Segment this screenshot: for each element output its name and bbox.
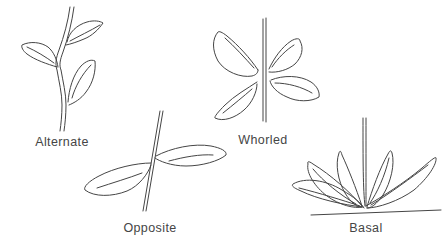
- alternate-arrangement-drawing: Alternate: [22, 7, 103, 149]
- basal-arrangement-drawing: Basal: [292, 118, 441, 235]
- basal-label: Basal: [349, 221, 382, 235]
- opposite-leaf-outline: [85, 163, 151, 195]
- opposite-label: Opposite: [123, 221, 176, 235]
- basal-ground-line: [311, 210, 441, 215]
- whorled-leaf-midrib: [275, 83, 312, 93]
- alternate-label: Alternate: [35, 135, 89, 149]
- leaf-arrangement-diagram: Alternate Whorled Opposite: [0, 0, 448, 248]
- basal-leaf-midrib: [370, 158, 389, 203]
- basal-leaf-outline: [366, 158, 436, 208]
- diagram-canvas: Alternate Whorled Opposite: [0, 0, 448, 248]
- alternate-leaf-midrib: [72, 65, 91, 98]
- opposite-leaf-midrib: [169, 155, 213, 161]
- whorled-label: Whorled: [238, 133, 287, 147]
- opposite-leaf-outline: [155, 145, 226, 166]
- alternate-leaf-outline: [22, 43, 58, 67]
- whorled-leaf-outline: [270, 76, 319, 100]
- basal-leaf-outline: [337, 151, 362, 207]
- basal-stem-line: [363, 118, 365, 206]
- basal-leaf-outline: [308, 162, 362, 208]
- alternate-stem-line: [56, 7, 70, 131]
- whorled-leaf-outline: [214, 32, 259, 77]
- opposite-arrangement-drawing: Opposite: [85, 111, 226, 235]
- basal-leaf-midrib: [299, 188, 360, 206]
- whorled-leaf-midrib: [225, 38, 254, 68]
- whorled-leaf-midrib: [223, 89, 252, 113]
- opposite-stem-line: [143, 111, 160, 211]
- whorled-arrangement-drawing: Whorled: [214, 18, 320, 147]
- whorled-leaf-outline: [269, 39, 302, 72]
- whorled-leaf-outline: [215, 82, 257, 120]
